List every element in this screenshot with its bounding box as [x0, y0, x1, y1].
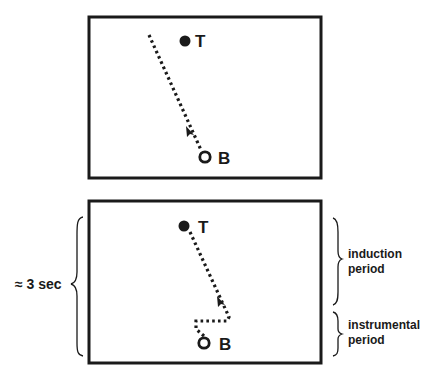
- bottom-panel: T B: [89, 201, 321, 363]
- top-base-circle: [200, 152, 210, 162]
- instrumental-brace: [333, 312, 342, 356]
- instrumental-label-line2: period: [348, 333, 385, 347]
- top-panel: T B: [89, 17, 321, 178]
- bottom-base-label: B: [219, 335, 231, 354]
- induction-brace: [333, 218, 342, 305]
- top-base-label: B: [218, 149, 230, 168]
- diagram: T B T B ≈ 3 sec induction period instrum…: [0, 0, 439, 375]
- duration-annotation: ≈ 3 sec: [15, 217, 83, 356]
- top-path: [149, 35, 201, 150]
- induction-annotation: induction period: [333, 218, 402, 305]
- induction-label-line1: induction: [348, 247, 402, 261]
- instrumental-annotation: instrumental period: [333, 312, 420, 356]
- bottom-path: [190, 232, 229, 336]
- bottom-arrowhead-icon: [217, 296, 225, 307]
- top-target-label: T: [195, 32, 206, 51]
- bottom-base-circle: [199, 338, 209, 348]
- bottom-target-label: T: [198, 218, 209, 237]
- bottom-target-dot: [179, 221, 190, 232]
- induction-label-line2: period: [348, 262, 385, 276]
- top-target-dot: [180, 36, 191, 47]
- duration-label: ≈ 3 sec: [15, 276, 62, 292]
- instrumental-label-line1: instrumental: [348, 318, 420, 332]
- duration-brace: [71, 217, 83, 356]
